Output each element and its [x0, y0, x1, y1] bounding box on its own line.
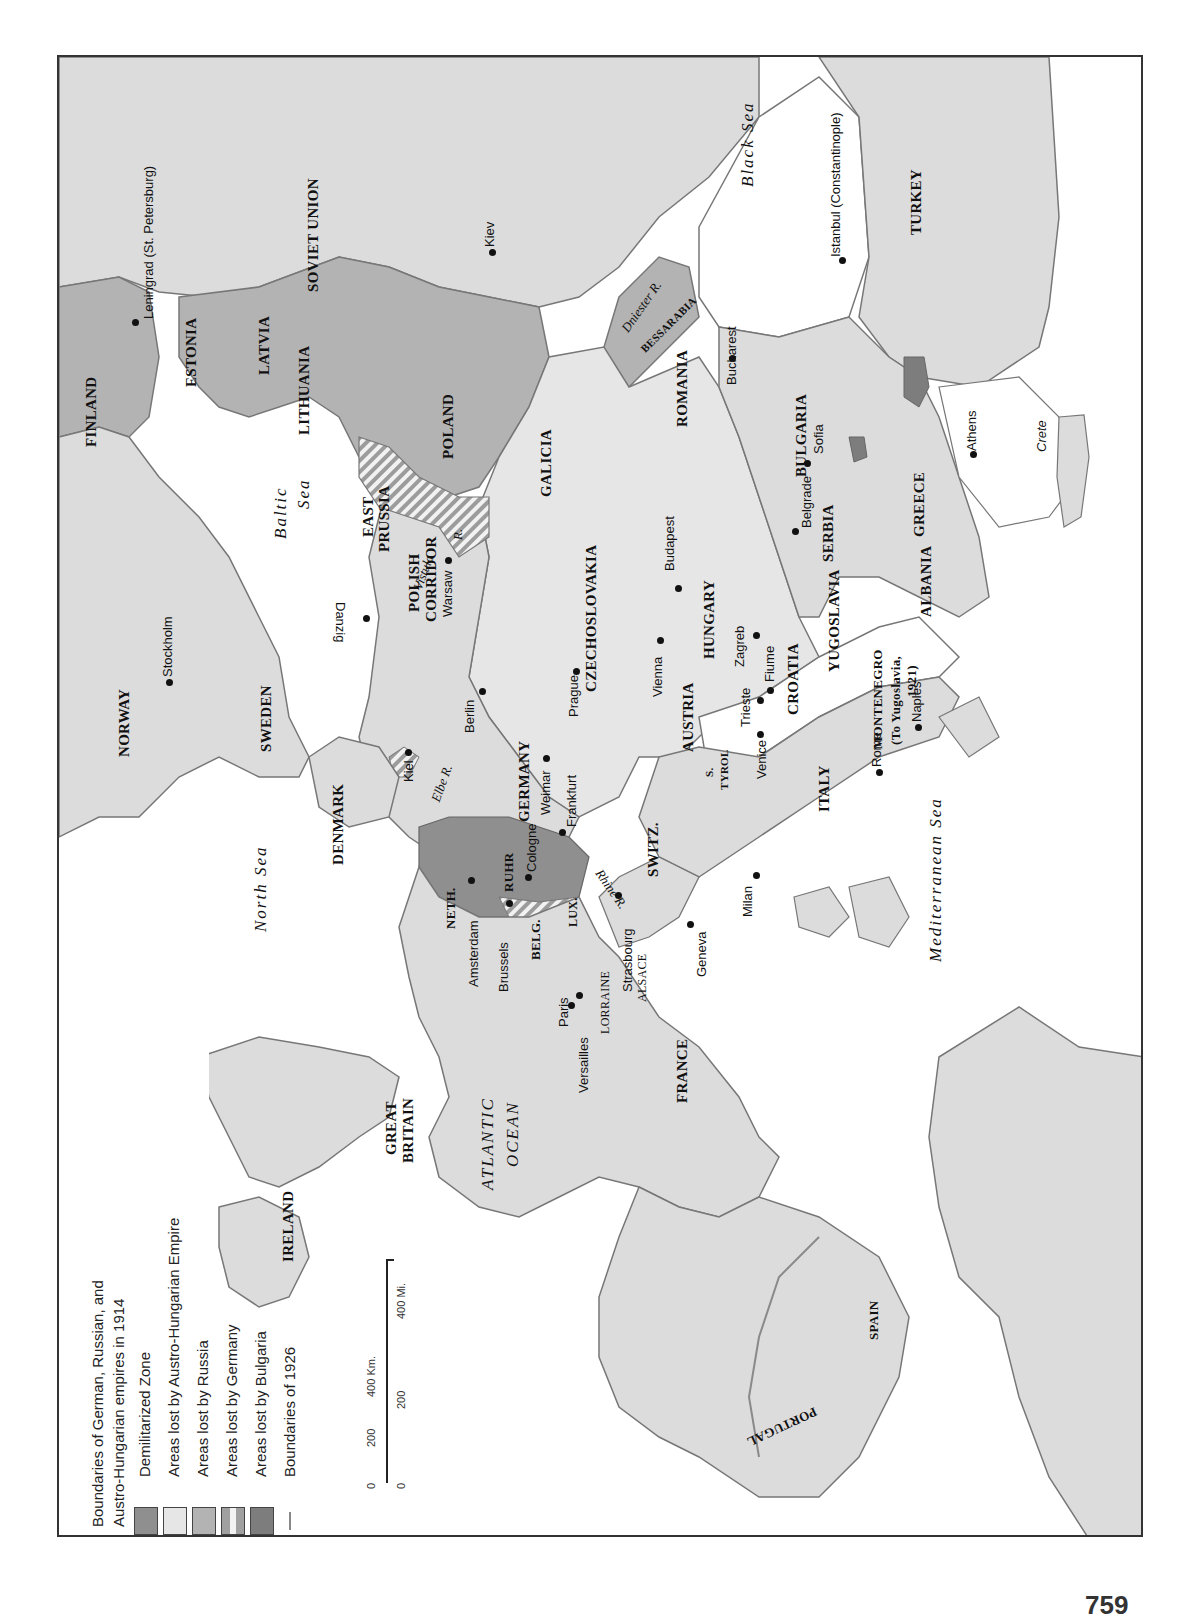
paris-dot: [576, 992, 583, 999]
berlin-label: Berlin: [463, 700, 476, 733]
yugoslavia-label: YUGOSLAVIA: [827, 569, 842, 672]
rome-label: Rome: [870, 732, 883, 767]
france-label: FRANCE: [675, 1039, 690, 1103]
map-canvas: [59, 57, 1143, 1537]
finland-label: FINLAND: [84, 377, 99, 447]
zagreb-dot: [753, 632, 760, 639]
scale-mi-400: 400 Mi.: [396, 1283, 407, 1319]
denmark-label: DENMARK: [331, 784, 346, 865]
kiel-label: Kiel: [402, 760, 415, 782]
ruhr-label: RUHR: [502, 853, 515, 892]
fiume-label: Fiume: [763, 646, 776, 682]
estonia-label: ESTONIA: [184, 318, 199, 387]
fiume-dot: [767, 687, 774, 694]
east-prussia-label-2: PRUSSIA: [377, 486, 392, 552]
legend-germany-label: Areas lost by Germany: [224, 1324, 239, 1477]
budapest-label: Budapest: [663, 516, 676, 571]
britain-label: BRITAIN: [401, 1098, 416, 1163]
crete-island: [1057, 415, 1089, 527]
s-tyrol-label-1: S.: [704, 768, 715, 777]
kiev-dot: [489, 249, 496, 256]
montenegro-note-1: (To Yugoslavia,: [889, 656, 902, 745]
scale-bar: [386, 1259, 388, 1483]
vistula-r-label: R.: [451, 529, 464, 540]
strasbourg-label: Strasbourg: [621, 928, 634, 992]
budapest-dot: [675, 585, 682, 592]
sweden-label: SWEDEN: [259, 685, 274, 752]
greece-label: GREECE: [912, 472, 927, 537]
belgrade-dot: [792, 528, 799, 535]
scale-km-200: 200: [366, 1429, 377, 1447]
neth-label: NETH.: [444, 887, 457, 929]
east-prussia-label-1: EAST: [361, 497, 376, 537]
s-tyrol-label-2: TYROL: [719, 749, 730, 790]
milan-label: Milan: [741, 886, 754, 917]
hungary-label: HUNGARY: [702, 580, 717, 659]
atlantic-label: ATLANTIC: [479, 1097, 496, 1190]
ireland-label: IRELAND: [281, 1191, 296, 1262]
prague-dot: [573, 668, 580, 675]
prague-label: Prague: [567, 675, 580, 717]
vienna-dot: [657, 637, 664, 644]
brussels-label: Brussels: [497, 942, 510, 992]
austria-label: AUSTRIA: [681, 682, 696, 752]
map-frame: Boundaries of German, Russian, and Austr…: [57, 55, 1143, 1537]
italy-label: ITALY: [817, 765, 832, 812]
legend-1914-label-2: Austro-Hungarian empires in 1914: [111, 1299, 126, 1527]
warsaw-dot: [445, 557, 452, 564]
venice-label: Venice: [755, 740, 768, 779]
turkey-label: TURKEY: [909, 169, 924, 235]
frankfurt-dot: [559, 829, 566, 836]
bucharest-label: Bucharest: [725, 326, 738, 385]
berlin-dot: [479, 688, 486, 695]
soviet-union-label: SOVIET UNION: [306, 178, 321, 292]
scale-tick-top: [386, 1259, 394, 1261]
great-britain-region: [199, 1037, 399, 1187]
legend-bulgaria-label: Areas lost by Bulgaria: [253, 1331, 268, 1477]
legend-germany-swatch: [221, 1507, 245, 1535]
zagreb-label: Zagreb: [733, 626, 746, 667]
legend-1926-label: Boundaries of 1926: [282, 1347, 297, 1477]
versailles-label: Versailles: [577, 1037, 590, 1093]
crete-label: Crete: [1035, 420, 1048, 452]
norway-label: NORWAY: [117, 689, 132, 757]
lithuania-label: LITHUANIA: [297, 346, 312, 435]
paris-label: Paris: [557, 997, 570, 1027]
legend-demilitarized-label: Demilitarized Zone: [137, 1352, 152, 1477]
cologne-dot: [525, 874, 532, 881]
galicia-label: GALICIA: [539, 429, 554, 497]
leningrad-label: Leningrad (St. Petersburg): [142, 166, 155, 319]
danzig-dot: [363, 615, 370, 622]
legend-austro-hungarian-label: Areas lost by Austro-Hungarian Empire: [166, 1218, 181, 1477]
milan-dot: [753, 872, 760, 879]
iberia-region: [599, 1187, 909, 1497]
stockholm-dot: [166, 679, 173, 686]
stockholm-label: Stockholm: [161, 616, 174, 677]
spain-label: SPAIN: [867, 1300, 880, 1340]
page-number: 759: [1085, 1590, 1128, 1618]
corsica-island: [794, 887, 849, 937]
albania-label: ALBANIA: [919, 546, 934, 617]
trieste-dot: [757, 697, 764, 704]
legend-area: [59, 1017, 209, 1537]
leningrad-dot: [132, 319, 139, 326]
trieste-label: Trieste: [739, 688, 752, 727]
danzig-label: Danzig: [334, 602, 347, 642]
romania-label: ROMANIA: [675, 350, 690, 427]
baltic-sea-label: Sea: [295, 478, 312, 509]
north-sea-label: North Sea: [252, 846, 269, 932]
venice-dot: [757, 731, 764, 738]
legend-demilitarized-swatch: [134, 1507, 158, 1535]
scale-km-400: 400 Km.: [366, 1356, 377, 1397]
poland-label: POLAND: [441, 394, 456, 459]
istanbul-label: Istanbul (Constantinople): [829, 112, 842, 257]
kiev-label: Kiev: [483, 222, 496, 247]
istanbul-dot: [839, 257, 846, 264]
baltic-label: Baltic: [272, 486, 289, 539]
geneva-dot: [687, 921, 694, 928]
frankfurt-label: Frankfurt: [565, 775, 578, 827]
cologne-label: Cologne: [525, 824, 538, 872]
warsaw-label: Warsaw: [441, 571, 454, 617]
croatia-label: CROATIA: [786, 643, 801, 715]
czechoslovakia-label: CZECHOSLOVAKIA: [584, 545, 599, 692]
